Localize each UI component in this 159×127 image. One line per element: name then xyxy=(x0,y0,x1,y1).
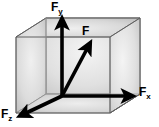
label-force-x-subscript: x xyxy=(146,92,150,101)
diagram-canvas xyxy=(0,0,159,127)
label-force-resultant: F xyxy=(82,25,89,37)
label-force-z: Fz xyxy=(1,108,12,123)
label-force-y-subscript: y xyxy=(58,7,62,16)
force-vector-diagram: Fy F Fx Fz xyxy=(0,0,159,127)
label-force-resultant-base: F xyxy=(82,24,89,38)
label-force-x: Fx xyxy=(139,86,151,101)
label-force-y: Fy xyxy=(51,1,63,16)
label-force-z-subscript: z xyxy=(8,114,12,123)
